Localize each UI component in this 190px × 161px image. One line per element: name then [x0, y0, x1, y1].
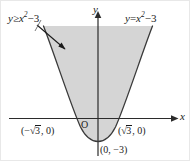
vertex-label: (0, −3) — [100, 145, 127, 155]
inequality-constant: 3 — [34, 12, 40, 24]
xint-left-comma: , 0 — [41, 125, 51, 136]
equation-label: y=x2−3 — [125, 11, 156, 24]
parabola-inequality-figure: y≥x2−3 y=x2−3 O y x (−√3, 0) (√3, 0) (0,… — [0, 0, 190, 161]
equation-constant: 3 — [151, 12, 157, 24]
y-axis-label: y — [93, 4, 98, 15]
xint-right-comma: , 0 — [132, 125, 142, 136]
x-intercept-right-label: (√3, 0) — [118, 125, 146, 136]
x-axis-label: x — [180, 111, 185, 122]
radical-icon: √ — [30, 126, 36, 136]
x-intercept-left-label: (−√3, 0) — [21, 125, 54, 136]
origin-label: O — [81, 120, 88, 130]
xint-left-close: ) — [51, 125, 54, 136]
x-axis-arrowhead — [171, 115, 179, 122]
inequality-label: y≥x2−3 — [8, 11, 39, 24]
xint-right-close: ) — [142, 125, 145, 136]
radical-icon: √ — [121, 126, 127, 136]
graph-canvas — [1, 1, 190, 161]
